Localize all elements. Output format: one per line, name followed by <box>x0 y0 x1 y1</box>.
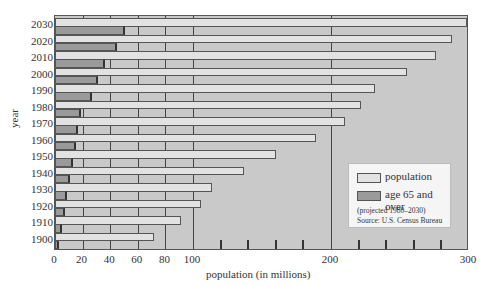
bar-population <box>55 183 212 192</box>
y-tick-label: 1970 <box>31 117 53 129</box>
bar-age-65-and-over <box>55 26 125 34</box>
bar-population <box>55 216 181 225</box>
bar-population <box>55 134 316 143</box>
y-tick-label: 1920 <box>31 200 53 212</box>
bar-population <box>55 101 361 110</box>
population-chart: 2030202020102000199019801970196019501940… <box>0 0 489 287</box>
bar-age-65-and-over <box>55 92 92 100</box>
y-tick-label: 1910 <box>31 216 53 228</box>
bar-population <box>55 167 244 176</box>
bar-age-65-and-over <box>55 241 59 249</box>
bar-age-65-and-over <box>55 43 117 51</box>
y-tick-label: 2000 <box>31 68 53 80</box>
legend-swatch-age65 <box>357 191 381 201</box>
y-tick-label: 1990 <box>31 84 53 96</box>
y-tick-label: 1960 <box>31 134 53 146</box>
bar-row-1990 <box>55 84 467 101</box>
bar-row-2010 <box>55 51 467 68</box>
x-tick-label: 20 <box>76 253 87 265</box>
y-tick-label: 1940 <box>31 167 53 179</box>
x-tick-label: 0 <box>51 253 57 265</box>
legend-note-source: Source: U.S. Census Bureau <box>357 216 442 225</box>
y-tick-label: 2010 <box>31 51 53 63</box>
y-tick-label: 1980 <box>31 101 53 113</box>
bar-age-65-and-over <box>55 158 73 166</box>
x-tick-label: 80 <box>159 253 170 265</box>
bar-row-1900 <box>55 233 467 250</box>
x-tick-label: 200 <box>322 253 339 265</box>
legend-note-projection: (projected 1980–2030) <box>357 206 426 215</box>
bar-population <box>55 200 201 209</box>
y-tick-label: 1900 <box>31 233 53 245</box>
bar-age-65-and-over <box>55 125 78 133</box>
bar-population <box>55 51 436 60</box>
x-tick-label: 40 <box>104 253 115 265</box>
legend-swatch-population <box>357 173 381 183</box>
bar-age-65-and-over <box>55 59 105 67</box>
bar-population <box>55 150 276 159</box>
bar-row-1960 <box>55 134 467 151</box>
legend-label-population: population <box>385 170 432 182</box>
bar-age-65-and-over <box>55 224 62 232</box>
bar-population <box>55 233 154 242</box>
bar-population <box>55 84 375 93</box>
bar-age-65-and-over <box>55 191 67 199</box>
bar-row-2020 <box>55 35 467 52</box>
x-axis-title: population (in millions) <box>206 268 311 280</box>
legend: population age 65 and over (projected 19… <box>348 163 451 228</box>
x-tick-label: 300 <box>460 253 477 265</box>
bar-age-65-and-over <box>55 109 81 117</box>
x-tick-label: 60 <box>131 253 142 265</box>
bar-population <box>55 117 345 126</box>
bar-age-65-and-over <box>55 175 70 183</box>
bar-row-2000 <box>55 68 467 85</box>
y-tick-label: 1930 <box>31 183 53 195</box>
y-axis-title: year <box>8 109 20 128</box>
bar-age-65-and-over <box>55 142 76 150</box>
y-tick-label: 2030 <box>31 18 53 30</box>
y-tick-label: 1950 <box>31 150 53 162</box>
bar-row-2030 <box>55 18 467 35</box>
bar-population <box>55 68 407 77</box>
bar-age-65-and-over <box>55 76 98 84</box>
bar-row-1970 <box>55 117 467 134</box>
bar-row-1980 <box>55 101 467 118</box>
y-tick-label: 2020 <box>31 35 53 47</box>
bar-age-65-and-over <box>55 208 65 216</box>
x-tick-label: 100 <box>184 253 201 265</box>
